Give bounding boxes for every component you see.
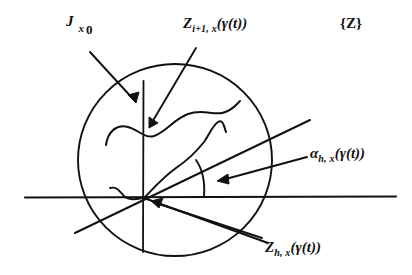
vertical-axis-line xyxy=(143,81,144,252)
horizontal-axis-line xyxy=(25,197,396,198)
label-z-iplus1-subscript: i+1, x xyxy=(192,23,217,34)
label-jacobi-symbol: J xyxy=(66,13,74,29)
label-z-h-subscript: h, x xyxy=(274,247,290,258)
label-jacobi-subscript-x: x xyxy=(74,22,85,34)
diagram-svg xyxy=(0,0,412,275)
label-z-iplus1-symbol: Z xyxy=(183,15,192,31)
label-alpha-h: αh, x(γ(t)) xyxy=(310,146,365,164)
squiggle-curve-top xyxy=(106,101,240,145)
label-jacobi-subscript-zero: 0 xyxy=(84,22,93,37)
figure-canvas: Jx0 Zi+1, x(γ(t)) {Z} αh, x(γ(t)) Zh, x(… xyxy=(0,0,412,275)
label-z-iplus1: Zi+1, x(γ(t)) xyxy=(183,16,247,34)
arrow-z-h xyxy=(151,198,262,238)
angle-arc xyxy=(196,160,204,197)
label-z-h-argument: (γ(t)) xyxy=(291,239,321,255)
arrow-z-iplus1 xyxy=(149,48,196,128)
label-alpha-argument: (γ(t)) xyxy=(335,145,365,161)
circle-boundary xyxy=(78,64,272,256)
squiggle-curve-upper xyxy=(144,121,226,198)
label-z-h: Zh, x(γ(t)) xyxy=(265,240,321,258)
label-z-h-symbol: Z xyxy=(265,239,274,255)
label-alpha-subscript: h, x xyxy=(318,153,334,164)
label-bracket-z: {Z} xyxy=(340,16,362,31)
arrow-alpha xyxy=(217,157,307,184)
label-jacobi: Jx0 xyxy=(66,14,93,36)
arrow-j-x0 xyxy=(90,52,139,103)
label-z-iplus1-argument: (γ(t)) xyxy=(217,15,247,31)
